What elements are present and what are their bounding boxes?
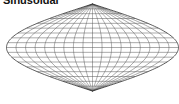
- sinusoidal-graticule: [0, 0, 179, 104]
